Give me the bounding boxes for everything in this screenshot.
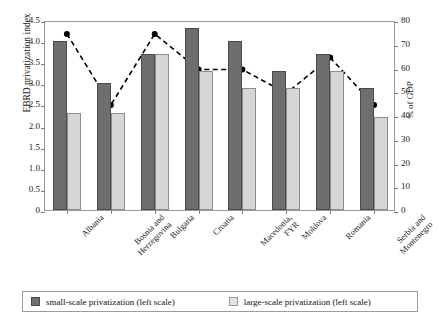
bar-large-scale (374, 117, 388, 210)
x-axis-category-labels: AlbaniaBosnia andHerzegovinaBulgariaCroa… (44, 213, 395, 287)
bar-large-scale (111, 113, 125, 210)
plot-area (44, 21, 395, 211)
bar-group (316, 22, 344, 210)
y-axis-left-tick-mark (41, 22, 45, 23)
y-axis-right-tick-label: 80 (401, 16, 410, 25)
bar-group (141, 22, 169, 210)
x-axis-category-label: Albania (80, 213, 106, 239)
bar-group (97, 22, 125, 210)
bar-small-scale (316, 54, 330, 210)
x-axis-category-label: Bosnia andHerzegovina (129, 213, 174, 258)
y-axis-left-tick-mark (41, 106, 45, 107)
y-axis-left-tick-label: 2.0 (29, 122, 40, 131)
legend-label: large-scale privatization (left scale) (244, 297, 371, 307)
bar-group (185, 22, 213, 210)
x-axis-category-label: Croatia (211, 213, 236, 238)
x-axis-category-label: Bulgaria (168, 213, 196, 241)
bar-large-scale (155, 54, 169, 210)
bar-small-scale (228, 41, 242, 210)
bar-small-scale (97, 83, 111, 210)
y-axis-left-tick-label: 0.5 (29, 185, 40, 194)
y-axis-left-tick-label: 3.0 (29, 79, 40, 88)
bar-group (360, 22, 388, 210)
y-axis-right-tick-mark (394, 117, 398, 118)
bar-large-scale (67, 113, 81, 210)
y-axis-left-tick-label: 1.0 (29, 164, 40, 173)
chart-figure: EBRD privatization index % of GDP 00.51.… (0, 0, 439, 313)
y-axis-right-tick-label: 70 (401, 40, 410, 49)
y-axis-left-tick-mark (41, 128, 45, 129)
legend-label: small-scale privatization (left scale) (46, 297, 175, 307)
bar-large-scale (330, 71, 344, 210)
y-axis-left-tick-label: 4.5 (29, 16, 40, 25)
bar-small-scale (360, 88, 374, 210)
y-axis-right-tick-mark (394, 93, 398, 94)
legend-swatch-large-icon (229, 297, 238, 306)
x-axis-category-label: Moldova (300, 213, 329, 242)
legend-item: large-scale privatization (left scale) (229, 297, 371, 307)
x-axis-category-label: Macedonia,FYR (259, 213, 301, 255)
bar-small-scale (53, 41, 67, 210)
y-axis-right-tick-label: 10 (401, 182, 410, 191)
x-axis-category-label: Romania (344, 213, 373, 242)
bar-group (53, 22, 81, 210)
bar-small-scale (141, 54, 155, 210)
y-axis-right-tick-mark (394, 188, 398, 189)
y-axis-right-tick-mark (394, 141, 398, 142)
y-axis-left-tick-mark (41, 43, 45, 44)
y-axis-left-tick-mark (41, 149, 45, 150)
y-axis-right-tick-label: 30 (401, 135, 410, 144)
y-axis-right-tick-mark (394, 70, 398, 71)
y-axis-left-tick-mark (41, 64, 45, 65)
y-axis-left-tick-label: 2.5 (29, 100, 40, 109)
bar-group (228, 22, 256, 210)
y-axis-left-tick-mark (41, 170, 45, 171)
y-axis-right-tick-label: 60 (401, 64, 410, 73)
bar-large-scale (286, 88, 300, 210)
y-axis-right-tick-mark (394, 46, 398, 47)
y-axis-right-tick-mark (394, 22, 398, 23)
x-axis-category-label: Serbia andMontenegro (391, 213, 434, 256)
bar-group (272, 22, 300, 210)
y-axis-right-tick-label: 0 (401, 206, 406, 215)
y-axis-left-tick-label: 1.5 (29, 143, 40, 152)
y-axis-right-tick-label: 40 (401, 111, 410, 120)
y-axis-left-tick-label: 3.5 (29, 58, 40, 67)
y-axis-right-tick-mark (394, 165, 398, 166)
y-axis-left-tick-label: 4.0 (29, 37, 40, 46)
chart-legend: small-scale privatization (left scale)la… (22, 291, 418, 312)
bar-large-scale (199, 71, 213, 210)
bar-small-scale (272, 71, 286, 210)
bar-small-scale (185, 28, 199, 210)
y-axis-right-tick-label: 50 (401, 87, 410, 96)
legend-swatch-small-icon (31, 297, 40, 306)
y-axis-left-tick-label: 0 (36, 206, 41, 215)
y-axis-right-tick-label: 20 (401, 159, 410, 168)
legend-item: small-scale privatization (left scale) (31, 297, 175, 307)
y-axis-left-tick-mark (41, 191, 45, 192)
y-axis-left-tick-mark (41, 85, 45, 86)
bar-large-scale (242, 88, 256, 210)
